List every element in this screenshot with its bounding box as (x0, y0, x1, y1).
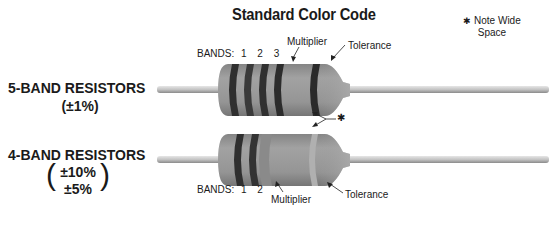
tolerance-10: ±10% (58, 164, 98, 181)
tolerance-pointer-4 (330, 184, 343, 193)
five-band-resistor (157, 60, 549, 120)
right-lead (345, 156, 549, 163)
five-band-tolerance: (±1%) (60, 98, 100, 114)
multiplier-pointer (293, 47, 299, 58)
five-band-bands-label: BANDS: 1 2 3 (197, 48, 279, 59)
band-number-2: 2 (257, 184, 263, 195)
paren-open: ( (46, 160, 56, 190)
four-band-title: 4-BAND RESISTORS (8, 147, 145, 163)
tolerance-pointer (333, 45, 345, 58)
band-number-2: 2 (257, 48, 263, 59)
four-band-tolerance-label: Tolerance (345, 189, 388, 200)
band-number-3: 3 (274, 48, 280, 59)
tolerance-5: ±5% (58, 181, 98, 198)
four-band-tolerance: ±10% ±5% (58, 164, 98, 198)
asterisk-icon: ✱ (337, 112, 345, 123)
four-band-resistor (157, 130, 549, 190)
band-number-1: 1 (241, 184, 247, 195)
left-lead (157, 156, 221, 163)
four-band-multiplier-label: Multiplier (271, 194, 311, 205)
five-band-tolerance-label: Tolerance (348, 40, 391, 51)
left-lead (157, 86, 221, 93)
five-band-multiplier-label: Multiplier (287, 36, 327, 47)
right-lead (345, 86, 549, 93)
four-band-bands-label: BANDS: 1 2 (197, 184, 263, 195)
five-band-title: 5-BAND RESISTORS (8, 80, 145, 96)
paren-close: ) (100, 160, 110, 190)
band-number-1: 1 (241, 48, 247, 59)
